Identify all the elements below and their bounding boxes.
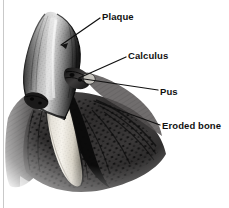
periodontal-disease-figure: Plaque Calculus Pus Eroded bone: [0, 0, 229, 208]
label-eroded-bone: Eroded bone: [162, 121, 221, 131]
label-plaque: Plaque: [102, 12, 134, 22]
label-layer: Plaque Calculus Pus Eroded bone: [0, 0, 229, 208]
label-calculus: Calculus: [128, 51, 168, 61]
label-pus: Pus: [160, 87, 178, 97]
